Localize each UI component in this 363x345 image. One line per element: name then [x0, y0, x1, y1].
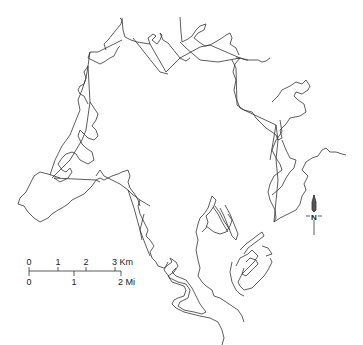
scale-km-2: 2 — [83, 257, 88, 267]
scale-km-3: 3 Km — [112, 257, 133, 267]
jetties — [213, 205, 272, 296]
scale-mi-1: 1 — [71, 277, 76, 287]
scale-km-1: 1 — [55, 257, 60, 267]
map-canvas: N 0 1 2 3 Km 0 1 2 Mi — [0, 0, 363, 345]
scale-bar — [29, 267, 121, 276]
scale-mi-2: 2 Mi — [118, 277, 135, 287]
scale-km-0: 0 — [26, 257, 31, 267]
east-coastline — [196, 196, 244, 322]
scale-mi-0: 0 — [26, 277, 31, 287]
north-label: N — [311, 213, 317, 222]
south-coastline — [128, 190, 224, 345]
boundary-lines — [50, 38, 278, 222]
